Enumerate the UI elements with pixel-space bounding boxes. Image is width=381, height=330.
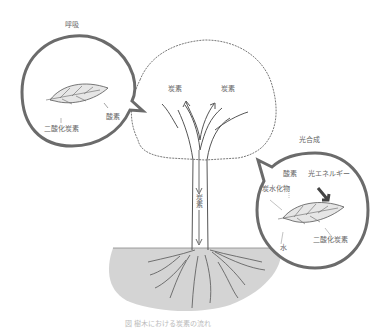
water-label: 水 (280, 245, 287, 252)
photosynthesis-title: 光合成 (299, 137, 320, 144)
tree-crown (131, 40, 276, 160)
trunk-label: 炭素 (195, 194, 202, 208)
photosynthesis-oxygen-label: 酸素 (283, 171, 297, 178)
crown-label-left: 炭素 (168, 86, 182, 93)
respiration-bubble (22, 36, 143, 146)
crown-label-right: 炭素 (221, 86, 235, 93)
carbohydrate-label: 炭水化物 (262, 186, 290, 193)
respiration-title: 呼吸 (65, 22, 79, 29)
respiration-oxygen-label: 酸素 (106, 114, 120, 121)
respiration-co2-label: 二酸化炭素 (44, 126, 79, 133)
figure-caption: 図 樹木における炭素の流れ (125, 318, 211, 328)
tree-diagram (0, 0, 381, 330)
tree-trunk (162, 104, 248, 250)
crown-arrows (183, 101, 215, 140)
light-energy-label: 光エネルギー (308, 171, 350, 178)
soil (109, 248, 290, 311)
photosynthesis-co2-label: 二酸化炭素 (313, 237, 348, 244)
